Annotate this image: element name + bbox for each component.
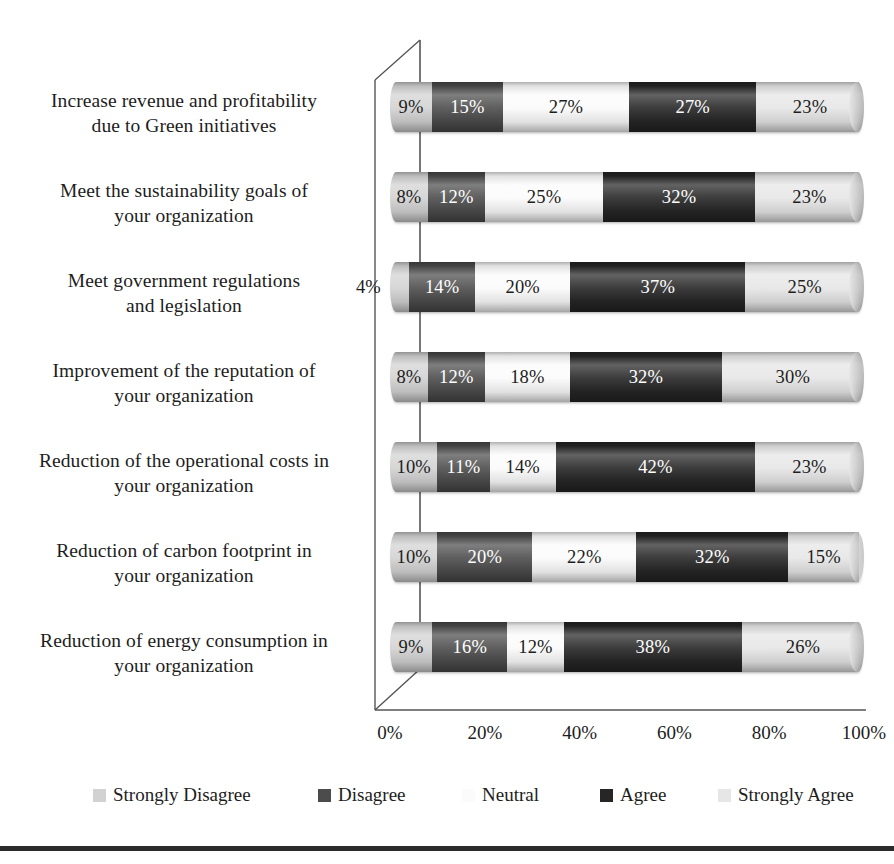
bar-segment[interactable]: 22%	[532, 532, 636, 582]
bar-segment-value: 32%	[629, 367, 664, 388]
legend-label: Neutral	[482, 784, 539, 806]
legend-swatch	[462, 789, 475, 802]
chart-figure: Increase revenue and profitability due t…	[0, 0, 894, 864]
bar-segment[interactable]: 15%	[432, 82, 502, 132]
legend-item[interactable]: Disagree	[318, 784, 406, 806]
bar-segment-value: 8%	[396, 187, 421, 208]
stacked-bar[interactable]: 14%20%37%25%	[390, 262, 864, 312]
legend-label: Disagree	[338, 784, 406, 806]
bar-segment-value: 12%	[439, 187, 474, 208]
bar-segment[interactable]: 23%	[755, 442, 864, 492]
bar-segment[interactable]: 8%	[390, 352, 428, 402]
x-axis-tick-label: 0%	[377, 722, 402, 744]
bar-segment[interactable]: 32%	[570, 352, 722, 402]
bar-segment-value: 23%	[792, 187, 827, 208]
bar-segment[interactable]: 12%	[428, 352, 485, 402]
bar-segment-value: 4%	[356, 262, 381, 312]
bar-segment[interactable]: 14%	[409, 262, 475, 312]
bar-segment-value: 20%	[468, 547, 503, 568]
bar-segment[interactable]	[390, 262, 409, 312]
bar-segment-value: 9%	[399, 97, 424, 118]
x-axis-tick-label: 40%	[562, 722, 597, 744]
bar-segment[interactable]: 18%	[485, 352, 570, 402]
bar-segment[interactable]: 25%	[745, 262, 864, 312]
bar-segment-value: 42%	[638, 457, 673, 478]
bar-segment[interactable]: 12%	[428, 172, 485, 222]
bar-segment[interactable]: 10%	[390, 532, 437, 582]
bar-row: 10%20%22%32%15%	[390, 532, 864, 582]
bar-segment[interactable]: 15%	[788, 532, 859, 582]
bar-segment-value: 9%	[399, 637, 424, 658]
bar-segment-value: 23%	[792, 457, 827, 478]
bar-segment[interactable]: 23%	[755, 172, 864, 222]
bar-segment-value: 11%	[447, 457, 481, 478]
x-axis-tick-label: 100%	[842, 722, 886, 744]
bar-segment[interactable]: 16%	[432, 622, 507, 672]
bar-segment[interactable]: 11%	[437, 442, 489, 492]
legend-swatch	[93, 789, 106, 802]
bar-segment-value: 12%	[518, 637, 553, 658]
bar-row: 9%16%12%38%26%	[390, 622, 864, 672]
stacked-bar[interactable]: 8%12%18%32%30%	[390, 352, 864, 402]
bar-segment-value: 32%	[695, 547, 730, 568]
bar-segment-value: 16%	[453, 637, 488, 658]
stacked-bar[interactable]: 10%20%22%32%15%	[390, 532, 864, 582]
bar-segment-value: 37%	[641, 277, 676, 298]
legend-item[interactable]: Agree	[600, 784, 666, 806]
bar-segment[interactable]: 26%	[742, 622, 864, 672]
chart-legend: Strongly DisagreeDisagreeNeutralAgreeStr…	[0, 784, 894, 818]
bar-segment[interactable]: 42%	[556, 442, 755, 492]
legend-item[interactable]: Strongly Disagree	[93, 784, 251, 806]
stacked-bar[interactable]: 9%16%12%38%26%	[390, 622, 864, 672]
bar-segment[interactable]: 9%	[390, 82, 432, 132]
bar-segment[interactable]: 32%	[603, 172, 755, 222]
legend-item[interactable]: Strongly Agree	[718, 784, 854, 806]
bar-segment[interactable]: 25%	[485, 172, 604, 222]
legend-label: Strongly Disagree	[113, 784, 251, 806]
bar-segment[interactable]: 30%	[722, 352, 864, 402]
plot-area: Increase revenue and profitability due t…	[0, 0, 894, 760]
bar-segment-value: 15%	[450, 97, 485, 118]
bar-segment-value: 25%	[787, 277, 822, 298]
stacked-bar[interactable]: 8%12%25%32%23%	[390, 172, 864, 222]
bar-segment[interactable]: 14%	[490, 442, 556, 492]
bar-segment[interactable]: 27%	[503, 82, 630, 132]
bar-segment-value: 26%	[786, 637, 821, 658]
bar-segment[interactable]: 8%	[390, 172, 428, 222]
bar-segment[interactable]: 20%	[475, 262, 570, 312]
bar-segment[interactable]: 27%	[629, 82, 756, 132]
legend-swatch	[718, 789, 731, 802]
bar-segment[interactable]: 38%	[564, 622, 742, 672]
bar-segment-value: 12%	[439, 367, 474, 388]
bar-segment-value: 10%	[396, 547, 431, 568]
bar-segment-value: 25%	[527, 187, 562, 208]
bar-segment-value: 20%	[505, 277, 540, 298]
legend-item[interactable]: Neutral	[462, 784, 539, 806]
bar-segment-value: 32%	[662, 187, 697, 208]
bar-segment[interactable]: 20%	[437, 532, 532, 582]
x-axis-tick-label: 20%	[467, 722, 502, 744]
bar-segment-value: 10%	[396, 457, 431, 478]
bar-segment-value: 38%	[636, 637, 671, 658]
bar-segment[interactable]: 37%	[570, 262, 745, 312]
bar-segment[interactable]: 9%	[390, 622, 432, 672]
bar-segment-value: 14%	[425, 277, 460, 298]
bar-row: 4%14%20%37%25%	[390, 262, 864, 312]
bar-segment-value: 30%	[776, 367, 811, 388]
bar-segment[interactable]: 32%	[636, 532, 788, 582]
bar-segment-value: 14%	[505, 457, 540, 478]
bar-row: 8%12%25%32%23%	[390, 172, 864, 222]
bar-segment-value: 15%	[806, 547, 841, 568]
bar-segment[interactable]: 23%	[756, 82, 864, 132]
stacked-bar[interactable]: 9%15%27%27%23%	[390, 82, 864, 132]
bar-segment[interactable]: 12%	[507, 622, 563, 672]
stacked-bar[interactable]: 10%11%14%42%23%	[390, 442, 864, 492]
legend-label: Agree	[620, 784, 666, 806]
bar-row: 10%11%14%42%23%	[390, 442, 864, 492]
x-axis-tick-label: 60%	[657, 722, 692, 744]
bar-segment-value: 23%	[793, 97, 828, 118]
bar-series-container: 9%15%27%27%23%8%12%25%32%23%4%14%20%37%2…	[0, 0, 894, 760]
bar-segment-value: 18%	[510, 367, 545, 388]
bar-segment[interactable]: 10%	[390, 442, 437, 492]
bottom-rule	[0, 846, 894, 851]
